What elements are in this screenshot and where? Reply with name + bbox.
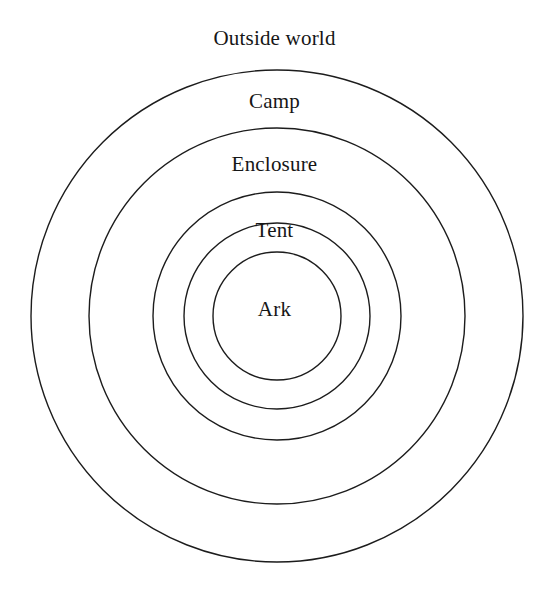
ring-label-ark: Ark	[0, 297, 549, 322]
concentric-rings-diagram: Outside world Camp Enclosure Tent Ark	[0, 0, 549, 612]
ring-label-tent: Tent	[0, 218, 549, 243]
ring-label-camp: Camp	[0, 89, 549, 114]
ring-label-enclosure: Enclosure	[0, 152, 549, 177]
ring-label-outside-world: Outside world	[0, 26, 549, 51]
